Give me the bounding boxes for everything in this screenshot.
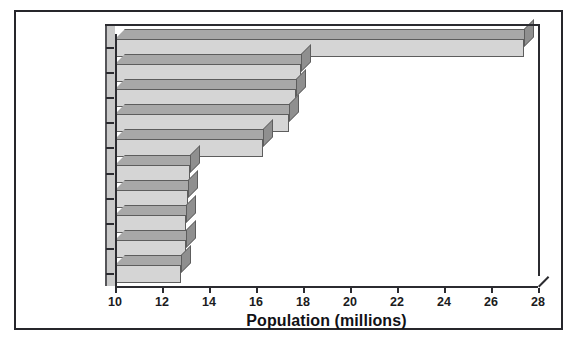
chart-plot-area: TokyoMexico CityMumbaiSao PauloNew YorkL… <box>0 0 583 341</box>
bar-front-face <box>115 265 181 283</box>
x-axis-tick <box>209 288 211 293</box>
y-axis-tick <box>106 122 114 124</box>
y-axis-tick <box>106 223 114 225</box>
bar-top-face <box>115 255 191 265</box>
x-axis-tick-label: 26 <box>484 295 498 309</box>
x-axis-tick <box>256 288 258 293</box>
y-axis-tick <box>106 198 114 200</box>
y-axis-tick <box>106 273 114 275</box>
x-axis-tick <box>162 288 164 293</box>
x-axis-tick-label: 12 <box>155 295 169 309</box>
x-axis-tick <box>303 288 305 293</box>
y-axis-tick <box>106 97 114 99</box>
x-axis-tick-label: 18 <box>296 295 310 309</box>
plot-back-bottom-line <box>538 24 540 276</box>
x-axis-line <box>115 286 538 288</box>
y-axis-tick <box>106 72 114 74</box>
bar-side-face <box>181 245 191 273</box>
x-axis-tick-label: 24 <box>437 295 451 309</box>
x-axis-tick <box>115 288 117 293</box>
x-axis-tick-label: 22 <box>390 295 404 309</box>
y-axis-tick <box>106 147 114 149</box>
x-axis-tick <box>444 288 446 293</box>
x-axis-tick <box>350 288 352 293</box>
bar-buenos-aires <box>0 0 583 341</box>
x-axis-tick <box>538 288 540 293</box>
y-axis-line <box>115 34 117 286</box>
x-axis-tick <box>397 288 399 293</box>
x-axis-tick-label: 14 <box>202 295 216 309</box>
chart-figure: TokyoMexico CityMumbaiSao PauloNew YorkL… <box>0 0 583 341</box>
x-axis-tick-label: 28 <box>531 295 545 309</box>
y-axis-tick <box>106 173 114 175</box>
x-axis-title: Population (millions) <box>0 312 583 330</box>
x-axis-top-line <box>105 24 538 26</box>
x-axis-tick-label: 10 <box>108 295 122 309</box>
x-axis-tick <box>491 288 493 293</box>
x-axis-tick-label: 16 <box>249 295 263 309</box>
x-axis-tick-label: 20 <box>343 295 357 309</box>
y-axis-tick <box>106 248 114 250</box>
y-axis-tick <box>106 47 114 49</box>
